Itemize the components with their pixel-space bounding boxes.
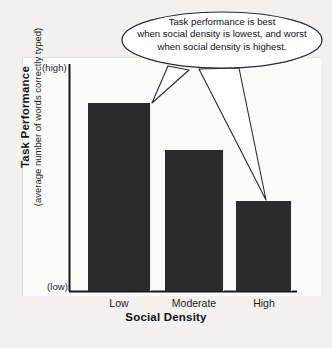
- x-tick-label-high: High: [234, 297, 294, 309]
- y-axis-title: Task Performance: [19, 66, 31, 168]
- callout-text: Task performance is best when social den…: [124, 16, 320, 53]
- callout-line-3: when social density is highest.: [124, 41, 320, 53]
- callout-line-2: when social density is lowest, and worst: [124, 28, 320, 40]
- callout-line-1: Task performance is best: [124, 16, 320, 28]
- y-axis-subtitle: (average number of words correctly typed…: [32, 28, 43, 206]
- y-axis-title-group: Task Performance (average number of word…: [14, 12, 48, 222]
- x-tick-label-moderate: Moderate: [164, 297, 224, 309]
- callout-tail-to-high-bar: [199, 68, 266, 200]
- x-tick-label-low: Low: [89, 297, 149, 309]
- callout-tail-to-low-bar: [152, 66, 189, 103]
- bar-chart-figure: Task performance is best when social den…: [0, 0, 332, 348]
- x-axis-title: Social Density: [0, 311, 332, 323]
- y-axis-low-label: (low): [47, 281, 68, 292]
